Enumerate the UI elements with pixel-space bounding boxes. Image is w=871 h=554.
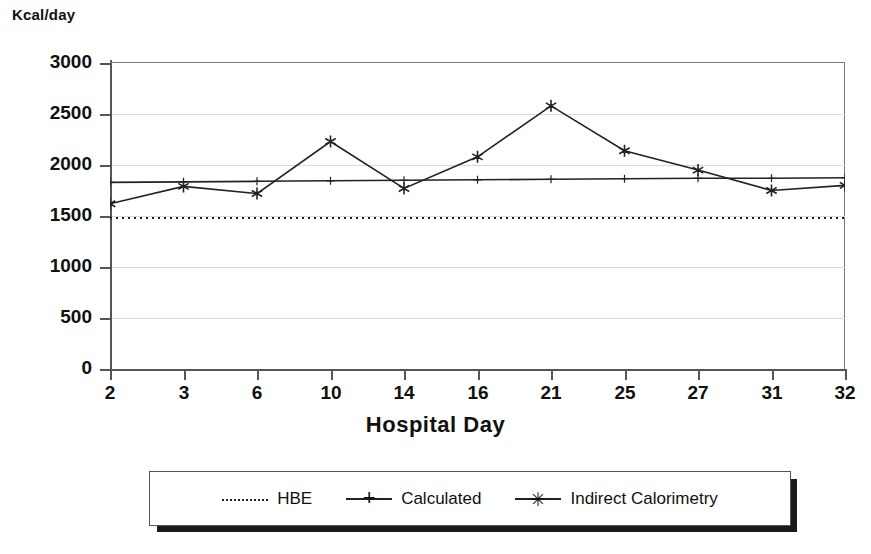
legend-marker: ✳ bbox=[530, 489, 546, 508]
legend-item[interactable]: HBE bbox=[222, 489, 312, 509]
data-point-marker bbox=[768, 174, 776, 182]
x-axis-tick bbox=[698, 369, 700, 380]
x-axis-tick-label: 27 bbox=[668, 382, 728, 404]
x-axis-tick-label: 6 bbox=[227, 382, 287, 404]
data-point-marker bbox=[474, 176, 482, 184]
data-point-marker bbox=[547, 175, 555, 183]
x-axis-tick bbox=[478, 369, 480, 380]
x-axis-tick-label: 16 bbox=[448, 382, 508, 404]
x-axis-tick-label: 10 bbox=[301, 382, 361, 404]
legend-line bbox=[222, 499, 268, 501]
legend-label: HBE bbox=[277, 489, 312, 509]
legend-marker: + bbox=[363, 487, 376, 509]
plus-marker-icon: + bbox=[346, 492, 392, 506]
x-axis-tick-label: 21 bbox=[521, 382, 581, 404]
data-point-marker bbox=[110, 178, 114, 186]
star-marker-icon: ✳ bbox=[515, 492, 561, 506]
x-axis-tick-label: 2 bbox=[80, 382, 140, 404]
x-axis-tick bbox=[184, 369, 186, 380]
x-axis-tick bbox=[110, 369, 112, 380]
y-axis-tick-label: 2500 bbox=[0, 102, 92, 124]
x-axis-tick-label: 25 bbox=[595, 382, 655, 404]
x-axis-tick bbox=[257, 369, 259, 380]
x-axis-tick bbox=[331, 369, 333, 380]
y-axis-tick-label: 1000 bbox=[0, 255, 92, 277]
x-axis-tick-label: 32 bbox=[815, 382, 871, 404]
y-axis-tick-label: 2000 bbox=[0, 153, 92, 175]
y-axis-tick-label: 1500 bbox=[0, 204, 92, 226]
dotted-line-icon bbox=[222, 492, 268, 506]
data-point-marker bbox=[399, 182, 409, 194]
data-point-marker bbox=[253, 177, 261, 185]
y-axis-tick-label: 0 bbox=[0, 357, 92, 379]
data-point-marker bbox=[619, 145, 629, 157]
x-axis-tick bbox=[772, 369, 774, 380]
x-axis-tick bbox=[404, 369, 406, 380]
legend-item[interactable]: +Calculated bbox=[346, 489, 481, 509]
x-axis-tick-label: 3 bbox=[154, 382, 214, 404]
data-point-marker bbox=[472, 151, 482, 163]
legend-label: Calculated bbox=[401, 489, 481, 509]
x-axis-tick-label: 31 bbox=[742, 382, 802, 404]
x-axis-title: Hospital Day bbox=[0, 412, 871, 438]
x-axis-tick-label: 14 bbox=[374, 382, 434, 404]
y-axis-title: Kcal/day bbox=[12, 6, 75, 23]
plot-area bbox=[110, 63, 845, 369]
data-point-marker bbox=[546, 100, 556, 112]
legend-label: Indirect Calorimetry bbox=[570, 489, 717, 509]
x-axis-tick bbox=[551, 369, 553, 380]
data-point-marker bbox=[693, 164, 703, 176]
y-axis-tick-label: 500 bbox=[0, 306, 92, 328]
chart-figure: Kcal/day 050010001500200025003000 236101… bbox=[0, 0, 871, 554]
chart-legend: HBE+Calculated✳Indirect Calorimetry bbox=[149, 471, 791, 526]
data-point-marker bbox=[325, 136, 335, 148]
y-axis-tick-label: 3000 bbox=[0, 51, 92, 73]
x-axis-tick bbox=[625, 369, 627, 380]
x-axis-tick bbox=[845, 369, 847, 380]
data-point-marker bbox=[327, 177, 335, 185]
legend-item[interactable]: ✳Indirect Calorimetry bbox=[515, 489, 717, 509]
data-point-marker bbox=[621, 175, 629, 183]
